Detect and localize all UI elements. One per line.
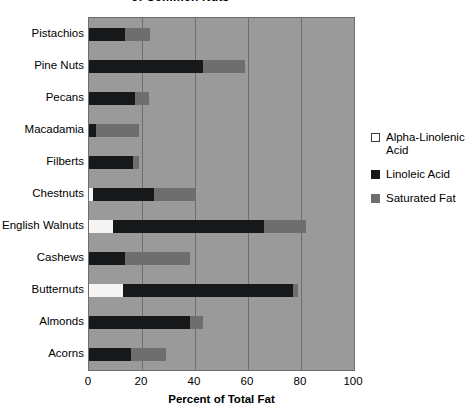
y-axis-label: English Walnuts bbox=[0, 219, 84, 231]
x-axis-tick-label: 80 bbox=[294, 374, 307, 388]
y-axis-label: Pine Nuts bbox=[0, 59, 84, 71]
x-axis-tick-label: 100 bbox=[343, 374, 362, 388]
bar-segment bbox=[190, 316, 203, 329]
bar-row bbox=[89, 348, 354, 361]
legend-item[interactable]: Saturated Fat bbox=[371, 192, 471, 205]
y-axis-label: Macadamia bbox=[0, 123, 84, 135]
bar-row bbox=[89, 124, 354, 137]
bar-segment bbox=[89, 220, 113, 233]
y-axis-label: Chestnuts bbox=[0, 187, 84, 199]
bar-row bbox=[89, 92, 354, 105]
bar-row bbox=[89, 60, 354, 73]
bar-segment bbox=[293, 284, 298, 297]
bar-row bbox=[89, 220, 354, 233]
y-axis-label: Cashews bbox=[0, 251, 84, 263]
bar-segment bbox=[123, 284, 293, 297]
y-axis-label: Pistachios bbox=[0, 27, 84, 39]
bar-row bbox=[89, 284, 354, 297]
bar-segment bbox=[96, 124, 140, 137]
chart-title: of Common Nuts bbox=[0, 0, 360, 4]
legend-swatch-icon bbox=[371, 170, 380, 179]
y-axis-label: Filberts bbox=[0, 155, 84, 167]
bar-segment bbox=[89, 348, 131, 361]
x-axis-tick-label: 20 bbox=[135, 374, 148, 388]
bar-segment bbox=[89, 60, 203, 73]
bar-segment bbox=[135, 92, 148, 105]
legend-item[interactable]: Linoleic Acid bbox=[371, 168, 471, 181]
bar-segment bbox=[89, 124, 96, 137]
y-axis-label: Butternuts bbox=[0, 283, 84, 295]
bar-row bbox=[89, 188, 354, 201]
legend-swatch-icon bbox=[371, 194, 380, 203]
bar-segment bbox=[89, 284, 123, 297]
legend-label: Alpha-Linolenic Acid bbox=[386, 131, 471, 157]
legend-label: Saturated Fat bbox=[386, 192, 456, 205]
bar-segment bbox=[89, 252, 125, 265]
x-axis-tick-label: 60 bbox=[241, 374, 254, 388]
bar-segment bbox=[113, 220, 264, 233]
x-axis-title: Percent of Total Fat bbox=[88, 393, 355, 405]
bar-segment bbox=[125, 28, 150, 41]
legend-label: Linoleic Acid bbox=[386, 168, 450, 181]
chart-legend: Alpha-Linolenic AcidLinoleic AcidSaturat… bbox=[371, 131, 471, 216]
bar-segment bbox=[131, 348, 165, 361]
bar-segment bbox=[89, 156, 133, 169]
bar-segment bbox=[133, 156, 140, 169]
bar-segment bbox=[89, 92, 135, 105]
bar-row bbox=[89, 156, 354, 169]
bar-segment bbox=[264, 220, 306, 233]
bar-row bbox=[89, 252, 354, 265]
x-axis-tick-label: 0 bbox=[85, 374, 91, 388]
x-axis-ticks: 020406080100 bbox=[88, 374, 355, 390]
bar-segment bbox=[89, 28, 125, 41]
plot-area bbox=[88, 17, 355, 371]
bar-segment bbox=[125, 252, 190, 265]
y-axis-label: Almonds bbox=[0, 315, 84, 327]
bar-segment bbox=[89, 316, 190, 329]
x-axis-tick-label: 40 bbox=[188, 374, 201, 388]
y-axis-label: Pecans bbox=[0, 91, 84, 103]
legend-swatch-icon bbox=[371, 133, 380, 142]
bar-segment bbox=[93, 188, 154, 201]
y-axis-labels: PistachiosPine NutsPecansMacadamiaFilber… bbox=[0, 17, 84, 371]
bar-segment bbox=[203, 60, 245, 73]
y-axis-label: Acorns bbox=[0, 347, 84, 359]
legend-item[interactable]: Alpha-Linolenic Acid bbox=[371, 131, 471, 157]
bar-row bbox=[89, 28, 354, 41]
bar-row bbox=[89, 316, 354, 329]
bar-segment bbox=[154, 188, 196, 201]
